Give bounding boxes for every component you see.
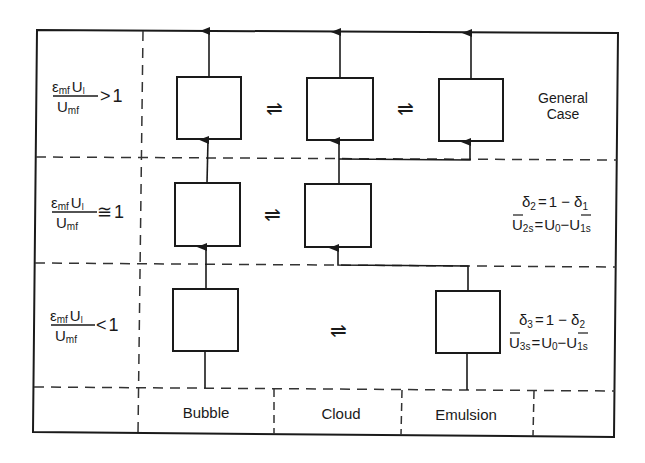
svg-text:δ3=1 − δ2: δ3=1 − δ2 [519, 311, 585, 330]
svg-text:εmfUl: εmfUl [52, 78, 85, 96]
svg-text:εmfUl: εmfUl [51, 194, 84, 212]
row1-note-line-1: General [538, 90, 588, 106]
column-label-bubble: Bubble [183, 404, 230, 421]
row3-condition: εmfUl Umf <1 [50, 307, 119, 345]
row2-exchange-bubble-cloud: ⇌ [264, 203, 281, 225]
row2-equation-delta: δ2=1 − δ1 [522, 193, 588, 212]
svg-text:Umf: Umf [57, 98, 79, 116]
row2-condition: εmfUl Umf ≅1 [51, 194, 124, 232]
row1-note-line-2: Case [547, 106, 580, 122]
row2-cloud-to-row1-emulsion-connector [339, 142, 470, 160]
row2-cloud-box [305, 184, 371, 247]
svg-text:Umf: Umf [56, 214, 78, 232]
row1-exchange-bubble-cloud: ⇌ [266, 97, 283, 119]
row3-emulsion-box [436, 291, 500, 353]
row1-emulsion-box [439, 79, 503, 141]
row-divider-3 [34, 387, 615, 391]
row2-equation-velocity: U2s=U0−U1s [512, 215, 591, 234]
column-label-emulsion: Emulsion [435, 406, 497, 423]
row3-exchange-bubble-emulsion: ⇌ [330, 319, 347, 341]
svg-text:δ2=1 − δ1: δ2=1 − δ1 [522, 193, 588, 212]
row1-exchange-cloud-emulsion: ⇌ [397, 97, 414, 119]
svg-text:εmfUl: εmfUl [50, 307, 83, 325]
row2-bubble-box [175, 183, 240, 246]
row3-equation-velocity: U3s=U0−U1s [509, 333, 588, 352]
row1-condition: εmfUl Umf >1 [52, 78, 123, 116]
label-divider-3 [533, 391, 534, 436]
svg-text:>1: >1 [100, 86, 123, 106]
row3-emulsion-to-row2-cloud-connector [338, 248, 468, 291]
column-label-cloud: Cloud [321, 405, 360, 422]
row1-bubble-box [177, 77, 241, 139]
svg-text:≅1: ≅1 [97, 202, 124, 222]
svg-text:U2s=U0−U1s: U2s=U0−U1s [512, 216, 591, 234]
svg-text:<1: <1 [96, 315, 119, 335]
svg-text:Umf: Umf [55, 327, 77, 345]
row2-bubble-to-row1-arrow [207, 140, 208, 183]
row-divider-1 [36, 157, 617, 160]
row3-equation-delta: δ3=1 − δ2 [519, 311, 585, 330]
svg-text:U3s=U0−U1s: U3s=U0−U1s [509, 334, 588, 352]
row1-cloud-box [307, 78, 373, 140]
phase-model-diagram: ⇌ ⇌ ⇌ ⇌ εmfUl Umf >1 εmfUl [0, 0, 645, 463]
row3-bubble-box [173, 289, 238, 351]
row-divider-2 [35, 263, 616, 267]
label-divider-2 [401, 390, 402, 435]
condition-column-divider [138, 31, 143, 433]
